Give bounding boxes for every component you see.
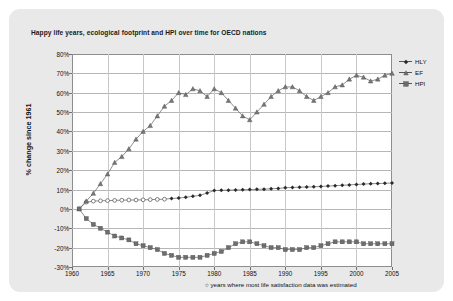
chart-card: Happy life years, ecological footprint a… bbox=[9, 9, 444, 292]
legend-swatch-diamond-icon bbox=[399, 61, 412, 62]
data-point-hpi bbox=[305, 246, 309, 250]
data-point-hpi bbox=[354, 240, 358, 244]
data-point-hpi bbox=[226, 246, 230, 250]
data-point-ef bbox=[297, 88, 302, 92]
data-point-hpi bbox=[326, 242, 330, 246]
y-tick-label: 60% bbox=[56, 89, 69, 96]
legend-label: HLY bbox=[415, 58, 427, 65]
data-point-hly bbox=[205, 191, 209, 195]
x-tick-mark bbox=[179, 267, 180, 270]
x-tick-label: 1985 bbox=[243, 270, 257, 277]
data-point-hly bbox=[354, 183, 358, 187]
data-point-hly bbox=[198, 193, 202, 197]
data-point-hpi bbox=[77, 207, 81, 211]
data-point-hly bbox=[319, 184, 323, 188]
data-point-hly bbox=[269, 187, 273, 191]
series-line-hly bbox=[79, 183, 392, 209]
x-tick-label: 1990 bbox=[278, 270, 292, 277]
data-point-hpi bbox=[241, 240, 245, 244]
data-point-hpi bbox=[148, 246, 152, 250]
data-point-ef bbox=[319, 94, 324, 98]
x-tick-label: 2000 bbox=[349, 270, 363, 277]
data-point-hly bbox=[333, 184, 337, 188]
data-point-hpi bbox=[170, 253, 174, 257]
data-point-hly bbox=[191, 194, 195, 198]
data-point-ef bbox=[390, 71, 395, 75]
legend-label: HPI bbox=[415, 80, 425, 87]
data-point-hly bbox=[212, 189, 216, 193]
data-point-hly bbox=[326, 184, 330, 188]
plot-area: 80%70%60%50%40%30%20%10%0%-10%-20%-30% 1… bbox=[72, 54, 392, 267]
legend-item-hly: HLY bbox=[399, 56, 447, 67]
data-point-hpi bbox=[283, 248, 287, 252]
data-point-hpi bbox=[98, 226, 102, 230]
data-point-hly bbox=[113, 198, 117, 202]
data-point-hpi bbox=[362, 242, 366, 246]
data-point-hpi bbox=[106, 230, 110, 234]
data-point-hpi bbox=[319, 244, 323, 248]
data-point-hpi bbox=[269, 246, 273, 250]
y-tick-label: 80% bbox=[56, 51, 69, 58]
legend-label: EF bbox=[415, 69, 423, 76]
data-point-hly bbox=[155, 198, 159, 202]
data-point-ef bbox=[176, 90, 181, 94]
data-point-hly bbox=[376, 182, 380, 186]
data-point-hly bbox=[134, 198, 138, 202]
data-point-hly bbox=[255, 187, 259, 191]
legend-item-ef: EF bbox=[399, 67, 447, 78]
data-point-hly bbox=[347, 183, 351, 187]
data-point-hpi bbox=[369, 242, 373, 246]
data-point-hly bbox=[362, 182, 366, 186]
x-tick-mark bbox=[214, 267, 215, 270]
data-point-hpi bbox=[390, 242, 394, 246]
y-tick-label: 30% bbox=[56, 147, 69, 154]
data-point-ef bbox=[276, 88, 281, 92]
data-point-hpi bbox=[127, 238, 131, 242]
data-point-hly bbox=[390, 181, 394, 185]
data-point-hly bbox=[234, 188, 238, 192]
data-point-hpi bbox=[184, 255, 188, 259]
y-tick-label: 0% bbox=[60, 205, 69, 212]
chart-title: Happy life years, ecological footprint a… bbox=[31, 29, 267, 36]
y-axis-label: % change since 1961 bbox=[24, 95, 33, 185]
x-tick-label: 1980 bbox=[207, 270, 221, 277]
x-tick-mark bbox=[72, 267, 73, 270]
data-point-ef bbox=[219, 90, 224, 94]
data-point-hpi bbox=[333, 240, 337, 244]
data-point-hly bbox=[184, 195, 188, 199]
data-point-hpi bbox=[84, 217, 88, 221]
data-point-hly bbox=[305, 185, 309, 189]
data-point-hpi bbox=[340, 240, 344, 244]
y-tick-label: 70% bbox=[56, 70, 69, 77]
chart-footnote: ○ years where most life satisfaction dat… bbox=[205, 281, 357, 288]
data-point-hly bbox=[163, 197, 167, 201]
data-point-hpi bbox=[383, 242, 387, 246]
data-point-ef bbox=[311, 98, 316, 102]
data-point-hpi bbox=[141, 244, 145, 248]
y-tick-label: -20% bbox=[54, 244, 69, 251]
data-point-hpi bbox=[255, 242, 259, 246]
data-point-hpi bbox=[234, 242, 238, 246]
data-point-hpi bbox=[162, 251, 166, 255]
data-point-ef bbox=[347, 77, 352, 81]
data-point-hpi bbox=[219, 250, 223, 254]
data-point-hly bbox=[283, 186, 287, 190]
y-tick-label: 10% bbox=[56, 186, 69, 193]
x-tick-label: 1970 bbox=[136, 270, 150, 277]
data-point-ef bbox=[375, 77, 380, 81]
data-point-hly bbox=[248, 188, 252, 192]
data-point-ef bbox=[105, 172, 110, 176]
data-point-hpi bbox=[134, 242, 138, 246]
data-point-hpi bbox=[276, 246, 280, 250]
data-point-ef bbox=[212, 87, 217, 91]
data-point-hly bbox=[241, 188, 245, 192]
x-tick-mark bbox=[392, 267, 393, 270]
data-point-hly bbox=[369, 182, 373, 186]
data-point-hly bbox=[127, 198, 131, 202]
data-point-hly bbox=[312, 185, 316, 189]
data-point-hpi bbox=[91, 222, 95, 226]
data-point-hpi bbox=[120, 236, 124, 240]
y-tick-label: 50% bbox=[56, 109, 69, 116]
data-point-hpi bbox=[262, 244, 266, 248]
data-point-hpi bbox=[298, 248, 302, 252]
